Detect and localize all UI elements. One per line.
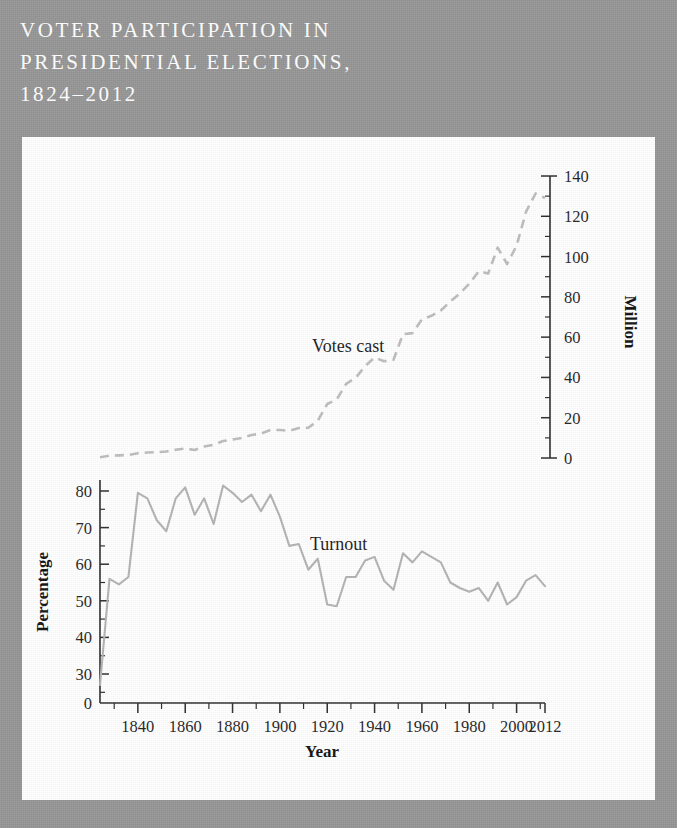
right-axis-tick-label: 60 — [564, 328, 581, 347]
page-title: Voter Participation in Presidential Elec… — [20, 14, 440, 110]
left-axis-title: Percentage — [33, 552, 52, 632]
x-axis-tick-label: 1920 — [311, 717, 344, 736]
x-axis-tick-label: 1860 — [169, 717, 202, 736]
right-axis-tick-label: 40 — [564, 368, 581, 387]
series-label-votes-cast: Votes cast — [312, 336, 384, 356]
x-axis-tick-label: 1960 — [405, 717, 438, 736]
x-axis-tick-label: 1980 — [453, 717, 486, 736]
x-axis-tick-label: 1840 — [121, 717, 154, 736]
left-axis-tick-label: 30 — [76, 665, 93, 684]
right-axis-title: Million — [621, 296, 640, 349]
x-axis-tick-label: 1940 — [358, 717, 391, 736]
left-axis-tick-label: 50 — [76, 592, 93, 611]
series-turnout-line — [100, 486, 545, 685]
right-axis-tick-label: 100 — [564, 248, 589, 267]
voter-participation-chart: 020406080100120140 Million 3040506070800… — [22, 137, 655, 800]
right-axis-tick-label: 120 — [564, 207, 589, 226]
left-axis-tick-label: 40 — [76, 628, 93, 647]
right-axis: 020406080100120140 Million — [541, 167, 640, 468]
x-axis-tick-label: 1880 — [216, 717, 249, 736]
chart-panel: 020406080100120140 Million 3040506070800… — [22, 137, 655, 800]
left-axis-tick-label: 60 — [76, 555, 93, 574]
right-axis-tick-label: 140 — [564, 167, 589, 186]
right-axis-tick-label: 80 — [564, 288, 581, 307]
left-axis: 3040506070800 Percentage — [33, 480, 109, 713]
left-axis-zero-label: 0 — [84, 694, 92, 713]
x-axis: 1840186018801900192019401960198020002012… — [100, 703, 562, 761]
x-axis-title: Year — [305, 742, 339, 761]
left-axis-tick-label: 70 — [76, 519, 93, 538]
x-axis-tick-label: 1900 — [263, 717, 296, 736]
series-votes-cast-line — [100, 194, 545, 458]
right-axis-tick-label: 0 — [564, 449, 572, 468]
x-axis-tick-label: 2012 — [529, 717, 562, 736]
series-label-turnout: Turnout — [310, 534, 367, 554]
left-axis-tick-label: 80 — [76, 482, 93, 501]
right-axis-tick-label: 20 — [564, 409, 581, 428]
